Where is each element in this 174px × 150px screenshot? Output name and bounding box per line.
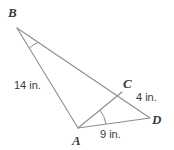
vertex-label-b: B [7,5,17,20]
angle-mark-b [29,42,39,48]
segment-ba [17,28,78,128]
measure-label-cd: 4 in. [136,91,157,103]
vertex-label-d: D [151,112,162,127]
vertex-label-c: C [123,76,132,91]
segment-bd [17,28,150,118]
geometry-canvas: B A C D 14 in. 4 in. 9 in. [0,0,174,150]
vertex-label-a: A [71,133,81,148]
geometry-figure: B A C D 14 in. 4 in. 9 in. [0,0,174,150]
measure-label-ba: 14 in. [14,79,41,91]
measure-label-ad: 9 in. [100,128,121,140]
angle-mark-a [100,110,106,124]
